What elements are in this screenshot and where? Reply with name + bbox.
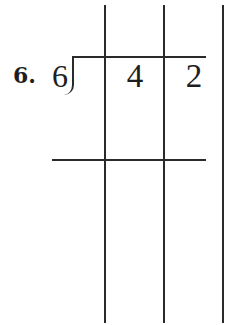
column-line-middle	[163, 5, 165, 323]
column-line-left	[104, 5, 106, 323]
dividend-digit-tens: 4	[115, 60, 155, 93]
subtraction-line	[52, 159, 206, 161]
divisor: 6	[52, 60, 68, 92]
dividend-digit-ones: 2	[174, 60, 214, 93]
problem-number: 6.	[13, 64, 36, 86]
column-line-right	[222, 5, 224, 323]
